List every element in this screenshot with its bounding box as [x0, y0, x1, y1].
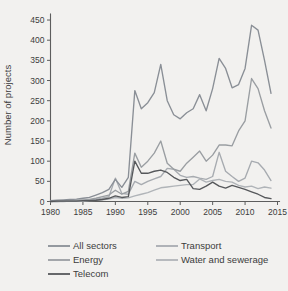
- chart-figure: 050100150200250300350400450 198019851990…: [0, 0, 288, 291]
- y-tick-label-0: 0: [40, 197, 45, 207]
- legend-label-telecom: Telecom: [73, 268, 108, 279]
- axis-lines: [51, 14, 280, 202]
- x-tick-label-1995: 1995: [138, 207, 157, 217]
- y-tick-label-100: 100: [30, 156, 44, 166]
- data-series-group: [51, 25, 272, 201]
- y-tick-label-50: 50: [35, 176, 45, 186]
- axis-ticks: [47, 20, 278, 205]
- chart-legend: All sectorsEnergyTelecomTransportWater a…: [48, 240, 268, 279]
- series-line-energy: [51, 79, 272, 202]
- y-tick-label-400: 400: [30, 35, 44, 45]
- y-tick-label-150: 150: [30, 136, 44, 146]
- legend-label-energy: Energy: [73, 254, 103, 265]
- y-tick-label-200: 200: [30, 116, 44, 126]
- y-tick-label-450: 450: [30, 15, 44, 25]
- y-axis-title: Number of projects: [2, 65, 13, 146]
- x-tick-label-2000: 2000: [171, 207, 190, 217]
- x-tick-label-1985: 1985: [73, 207, 92, 217]
- y-tick-label-250: 250: [30, 96, 44, 106]
- x-tick-label-2010: 2010: [236, 207, 255, 217]
- x-tick-label-1990: 1990: [106, 207, 125, 217]
- line-chart-svg: 050100150200250300350400450 198019851990…: [0, 0, 288, 291]
- y-tick-label-300: 300: [30, 76, 44, 86]
- series-line-all-sectors: [51, 25, 272, 200]
- y-axis-tick-labels: 050100150200250300350400450: [30, 15, 44, 206]
- legend-label-all-sectors: All sectors: [73, 240, 117, 251]
- series-line-transport: [51, 152, 272, 201]
- x-axis-tick-labels: 19801985199019952000200520102015: [41, 207, 287, 217]
- y-tick-label-350: 350: [30, 55, 44, 65]
- x-tick-label-1980: 1980: [41, 207, 60, 217]
- x-tick-label-2015: 2015: [268, 207, 287, 217]
- x-tick-label-2005: 2005: [203, 207, 222, 217]
- legend-label-water-and-sewerage: Water and sewerage: [181, 254, 268, 265]
- legend-label-transport: Transport: [181, 240, 222, 251]
